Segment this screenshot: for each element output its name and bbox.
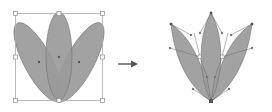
handle-top-center[interactable] [57, 12, 61, 16]
center-point-left [38, 61, 40, 63]
center-point-right [78, 61, 80, 63]
anchor-bottom[interactable] [209, 99, 213, 103]
left-shape-before [5, 12, 113, 108]
handle-bottom-center[interactable] [57, 99, 61, 103]
handle-mid-right[interactable] [101, 55, 105, 59]
handle-top-left[interactable] [14, 12, 18, 16]
handle-bottom-right[interactable] [101, 99, 105, 103]
right-shape-after [169, 12, 254, 104]
diagram-stage [0, 0, 272, 112]
anchor-top-center[interactable] [210, 12, 213, 15]
center-point-center [58, 56, 60, 58]
right-arrow-icon [118, 61, 138, 68]
anchor-top-left[interactable] [170, 23, 173, 26]
ellipse-petals [5, 12, 113, 107]
handle-top-right[interactable] [101, 12, 105, 16]
lotus-petals [171, 13, 252, 101]
handle-bottom-left[interactable] [14, 99, 18, 103]
transform-diagram [0, 0, 272, 112]
handle-mid-left[interactable] [14, 55, 18, 59]
anchor-top-right[interactable] [251, 23, 254, 26]
